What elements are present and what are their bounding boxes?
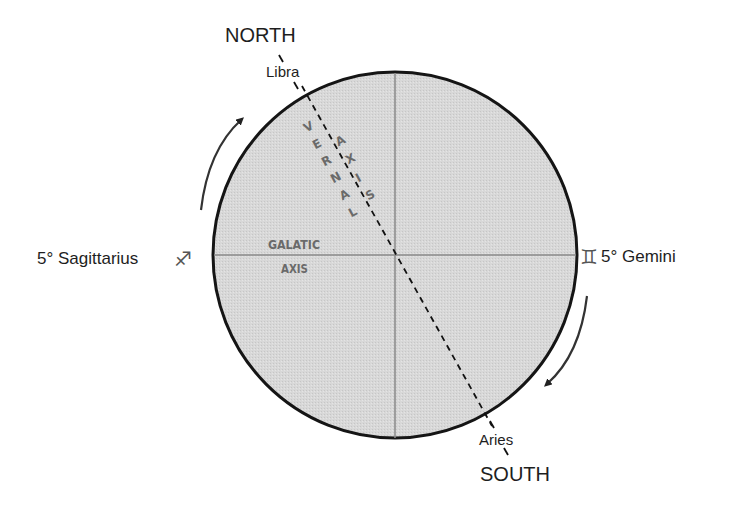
libra-label: Libra bbox=[266, 63, 300, 80]
sagittarius-symbol-icon: ♐ bbox=[174, 247, 192, 271]
galactic-axis-label-line2: AXIS bbox=[281, 262, 308, 276]
galactic-axis-label-line1: GALATIC bbox=[268, 238, 320, 252]
north-dash-lower bbox=[294, 82, 298, 89]
sagittarius-label: 5° Sagittarius bbox=[37, 249, 138, 268]
gemini-symbol-icon: ♊ bbox=[580, 245, 598, 269]
south-dash-lower bbox=[504, 448, 508, 455]
south-label: SOUTH bbox=[480, 463, 550, 485]
north-label: NORTH bbox=[225, 24, 296, 46]
celestial-axis-diagram: NORTH Libra Aries SOUTH 5° Sagittarius ♐… bbox=[0, 0, 729, 512]
north-dash-upper bbox=[279, 55, 283, 62]
aries-label: Aries bbox=[479, 431, 513, 448]
gemini-label: 5° Gemini bbox=[601, 247, 676, 266]
